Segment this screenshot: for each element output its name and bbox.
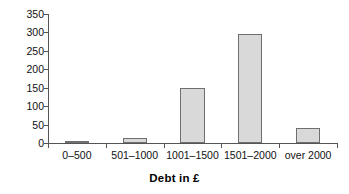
bar-chart: 050100150200250300350 0–500501–10001001–…	[0, 0, 349, 194]
bar-series	[48, 14, 337, 143]
y-axis-tick-label: 350	[0, 9, 44, 19]
y-axis-tick-label: 50	[0, 120, 44, 130]
bar	[180, 88, 204, 143]
x-axis-tick	[48, 143, 49, 148]
x-axis-tick	[164, 143, 165, 148]
bar	[65, 141, 89, 143]
bar	[238, 34, 262, 143]
y-axis-tick-label: 300	[0, 27, 44, 37]
bar	[123, 138, 147, 143]
x-axis-category-label: over 2000	[275, 150, 341, 161]
x-axis-category-label: 1501–2000	[217, 150, 283, 161]
x-axis-tick	[337, 143, 338, 148]
bar	[296, 128, 320, 143]
x-axis-category-label: 1001–1500	[160, 150, 226, 161]
x-axis-category-label: 0–500	[44, 150, 110, 161]
x-axis-tick	[106, 143, 107, 148]
y-axis-tick-label: 150	[0, 83, 44, 93]
x-axis-tick	[221, 143, 222, 148]
y-axis-tick-label: 0	[0, 138, 44, 148]
x-axis-tick	[279, 143, 280, 148]
x-axis-category-label: 501–1000	[102, 150, 168, 161]
x-axis-title: Debt in £	[0, 172, 349, 184]
x-axis-line	[48, 143, 337, 144]
y-axis-tick-label: 250	[0, 46, 44, 56]
y-axis-tick-label: 100	[0, 101, 44, 111]
y-axis-tick-label: 200	[0, 64, 44, 74]
